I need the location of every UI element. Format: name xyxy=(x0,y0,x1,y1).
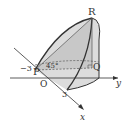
label-three: 3 xyxy=(62,90,67,99)
label-minus-three: −3 xyxy=(20,64,32,73)
solid-diagram: R P O Q x y −3 3 45° xyxy=(0,0,126,123)
label-angle-45: 45° xyxy=(46,62,58,70)
label-x-axis: x xyxy=(80,112,85,122)
label-Q: Q xyxy=(93,62,100,72)
label-O: O xyxy=(40,79,47,89)
label-P: P xyxy=(33,66,40,77)
label-y-axis: y xyxy=(115,78,122,88)
label-R: R xyxy=(88,6,96,17)
